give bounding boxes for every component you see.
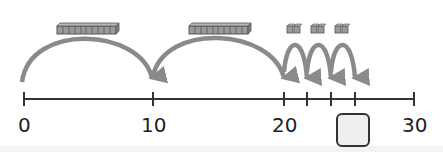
diagram-svg xyxy=(0,0,443,152)
ten-rod-1 xyxy=(57,23,119,34)
jump-arc-20-22 xyxy=(284,45,307,78)
label-20: 20 xyxy=(272,115,297,135)
two-cubes-1 xyxy=(287,24,302,33)
ten-rod-2 xyxy=(189,23,251,34)
jump-arc-10-20 xyxy=(153,38,284,78)
two-cubes-3 xyxy=(335,24,350,33)
bottom-band xyxy=(0,146,443,152)
jump-arcs xyxy=(22,38,355,82)
jump-arc-24-26 xyxy=(331,45,355,78)
label-10: 10 xyxy=(141,115,166,135)
number-line-diagram: 0 10 20 30 xyxy=(0,0,443,152)
jump-arc-22-24 xyxy=(307,45,331,78)
label-0: 0 xyxy=(18,115,31,135)
answer-box[interactable] xyxy=(336,113,370,147)
label-30: 30 xyxy=(402,115,427,135)
jump-arc-0-10 xyxy=(22,39,152,82)
two-cubes-2 xyxy=(311,24,326,33)
